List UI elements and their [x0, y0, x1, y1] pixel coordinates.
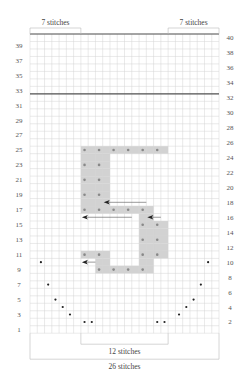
row-number-right: 8: [228, 274, 232, 282]
decrease-dot: [185, 306, 187, 308]
pattern-dot: [141, 208, 144, 211]
row-number-right: 4: [228, 304, 232, 312]
bottom-outer-stitch-label: 26 stitches: [109, 362, 141, 371]
top-right-stitch-label: 7 stitches: [180, 18, 208, 27]
decrease-dot: [69, 313, 71, 315]
row-number-left: 13: [16, 236, 24, 244]
pattern-dot: [156, 253, 159, 256]
pattern-dot: [112, 208, 115, 211]
row-number-right: 10: [227, 259, 235, 267]
pattern-dot: [112, 268, 115, 271]
row-number-right: 28: [227, 124, 235, 132]
decrease-dot: [83, 321, 85, 323]
row-number-left: 37: [16, 57, 24, 65]
row-number-right: 2: [228, 318, 232, 326]
row-number-right: 18: [227, 199, 235, 207]
row-number-right: 30: [227, 109, 235, 117]
pattern-dot: [127, 208, 130, 211]
row-number-left: 9: [17, 266, 21, 274]
pattern-dot: [98, 149, 101, 152]
stitch-grid: [30, 34, 219, 333]
row-number-left: 35: [16, 72, 24, 80]
row-number-right: 6: [228, 289, 232, 297]
pattern-dot: [83, 149, 86, 152]
row-number-left: 31: [16, 102, 24, 110]
row-number-right: 14: [227, 229, 235, 237]
decrease-dot: [178, 313, 180, 315]
top-right-bracket: 7 stitches: [168, 18, 219, 34]
decrease-dot: [47, 283, 49, 285]
pattern-dot: [141, 253, 144, 256]
decrease-dot: [192, 298, 194, 300]
row-number-left: 1: [17, 326, 21, 334]
pattern-dot: [141, 223, 144, 226]
decrease-dot: [200, 283, 202, 285]
row-number-right: 32: [227, 94, 235, 102]
row-number-left: 29: [16, 117, 24, 125]
pattern-dot: [127, 149, 130, 152]
row-number-right: 40: [227, 34, 235, 42]
row-number-left: 11: [16, 251, 23, 259]
pattern-dot: [141, 149, 144, 152]
row-number-left: 21: [16, 176, 24, 184]
row-number-left: 3: [17, 311, 21, 319]
decrease-dot: [156, 321, 158, 323]
pattern-dot: [98, 194, 101, 197]
row-number-right: 16: [227, 214, 235, 222]
decrease-dot: [54, 298, 56, 300]
pattern-dot: [98, 179, 101, 182]
row-number-right: 24: [227, 154, 235, 162]
decrease-dot: [163, 321, 165, 323]
pattern-dot: [127, 268, 130, 271]
row-number-right: 38: [227, 49, 235, 57]
row-number-right: 12: [227, 244, 235, 252]
pattern-dot: [156, 223, 159, 226]
row-number-left: 5: [17, 296, 21, 304]
pattern-dot: [98, 268, 101, 271]
row-number-left: 19: [16, 191, 24, 199]
pattern-dot: [141, 238, 144, 241]
row-number-left: 17: [16, 206, 24, 214]
pattern-dot: [98, 164, 101, 167]
pattern-dot: [83, 164, 86, 167]
row-number-left: 15: [16, 221, 24, 229]
decrease-dot: [62, 306, 64, 308]
pattern-dot: [83, 208, 86, 211]
pattern-dot: [98, 253, 101, 256]
pattern-dot: [156, 238, 159, 241]
top-left-stitch-label: 7 stitches: [41, 18, 69, 27]
row-number-left: 39: [16, 42, 24, 50]
row-number-right: 22: [227, 169, 235, 177]
row-number-right: 36: [227, 64, 235, 72]
row-number-right: 34: [227, 79, 235, 87]
decrease-dot: [40, 261, 42, 263]
row-number-left: 27: [16, 131, 24, 139]
pattern-dot: [83, 253, 86, 256]
row-number-right: 20: [227, 184, 235, 192]
pattern-dot: [156, 149, 159, 152]
row-number-left: 25: [16, 146, 24, 154]
pattern-dot: [112, 149, 115, 152]
pattern-dot: [98, 208, 101, 211]
row-number-left: 33: [16, 87, 24, 95]
knitting-chart: 3937353331292725232119171513119753140383…: [0, 0, 242, 382]
pattern-dot: [141, 268, 144, 271]
row-number-right: 26: [227, 139, 235, 147]
row-number-left: 23: [16, 161, 24, 169]
pattern-dot: [83, 179, 86, 182]
bottom-inner-bracket: 12 stitches: [81, 333, 168, 356]
top-left-bracket: 7 stitches: [30, 18, 81, 34]
decrease-dot: [91, 321, 93, 323]
row-number-left: 7: [17, 281, 21, 289]
bottom-inner-stitch-label: 12 stitches: [109, 347, 141, 356]
decrease-dot: [207, 261, 209, 263]
pattern-dot: [83, 194, 86, 197]
